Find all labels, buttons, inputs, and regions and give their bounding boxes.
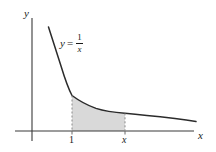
equation-left-side: y — [60, 38, 65, 49]
equation-equals-sign: = — [67, 38, 73, 49]
equation-fraction: 1 x — [76, 33, 83, 54]
y-axis-label: y — [24, 8, 29, 19]
tick-label-lower-bound: 1 — [69, 135, 74, 145]
curve-equation-label: y = 1 x — [60, 33, 83, 54]
fraction-numerator: 1 — [76, 33, 83, 43]
fraction-denominator: x — [77, 44, 83, 54]
x-axis-label: x — [198, 130, 203, 141]
figure-container: y x 1 x y = 1 x — [0, 0, 216, 152]
tick-label-upper-bound: x — [122, 135, 126, 145]
graph-canvas — [0, 0, 216, 152]
